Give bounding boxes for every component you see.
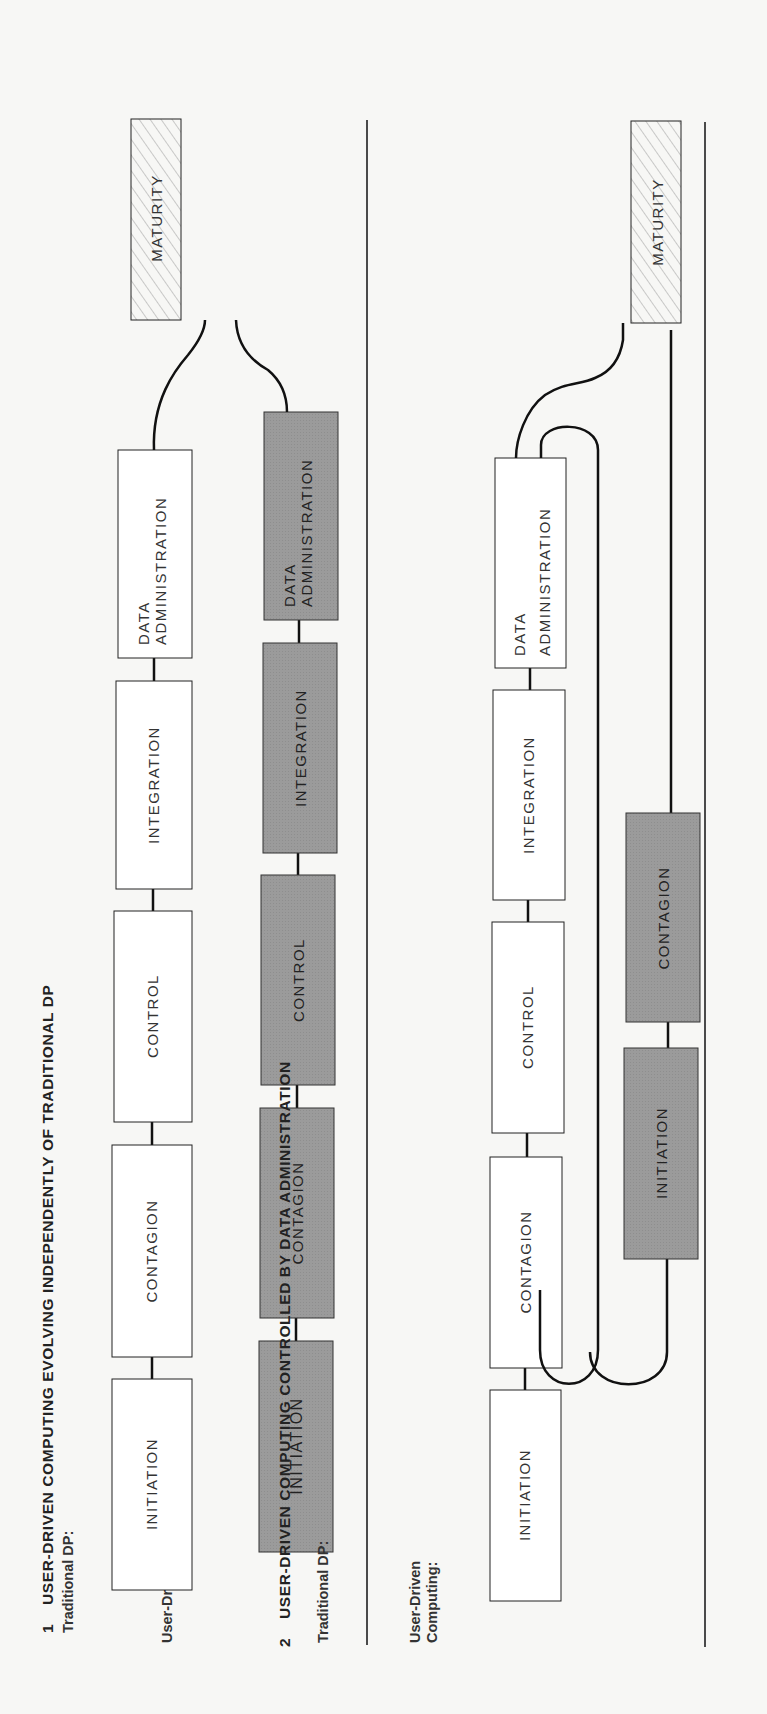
diagram-2-user-stages: CONTAGION INITIATION <box>624 813 700 1259</box>
stage-label: INTEGRATION <box>145 726 162 844</box>
stage-label: CONTROL <box>290 938 307 1022</box>
diagram-1-number: 1 <box>39 1624 56 1633</box>
diagram-2-title: USER-DRIVEN COMPUTING CONTROLLED BY DATA… <box>276 1061 293 1619</box>
stage-label: CONTROL <box>519 985 536 1069</box>
diagram-2: 2 USER-DRIVEN COMPUTING CONTROLLED BY DA… <box>276 121 700 1647</box>
stage-label: DATA <box>135 601 152 645</box>
stage-label: CONTAGION <box>143 1199 160 1302</box>
stage-box-data-administration <box>495 458 566 668</box>
stage-label: CONTAGION <box>517 1210 534 1313</box>
diagram-1-user-stages: INITIATION CONTAGION CONTROL INTEGRATION… <box>259 412 338 1552</box>
diagram-2-traditional-label: Traditional DP: <box>315 1541 331 1643</box>
diagram-2-user-driven-label-line2: Computing: <box>424 1562 440 1643</box>
stage-label: CONTROL <box>144 974 161 1058</box>
diagram-1-title: USER-DRIVEN COMPUTING EVOLVING INDEPENDE… <box>39 984 56 1605</box>
stage-label: ADMINISTRATION <box>298 459 315 607</box>
stage-label: INTEGRATION <box>520 736 537 854</box>
maturity-label: MATURITY <box>649 178 666 266</box>
diagram-2-traditional-stages: INITIATION CONTAGION CONTROL INTEGRATION… <box>490 458 566 1601</box>
stage-label: INITIATION <box>143 1438 160 1530</box>
stage-label: ADMINISTRATION <box>152 497 169 645</box>
stage-label: ADMINISTRATION <box>536 508 553 656</box>
diagram-2-maturity-connector <box>516 323 623 458</box>
diagram-2-number: 2 <box>276 1638 293 1647</box>
diagram-1-traditional-stages: INITIATION CONTAGION CONTROL INTEGRATION… <box>112 450 192 1590</box>
maturity-label: MATURITY <box>148 174 165 262</box>
stage-diagram: 1 USER-DRIVEN COMPUTING EVOLVING INDEPEN… <box>0 0 767 1714</box>
diagram-2-user-driven-label-line1: User-Driven <box>407 1561 423 1643</box>
stage-label: DATA <box>281 563 298 607</box>
stage-label: INITIATION <box>516 1449 533 1541</box>
stage-label: INITIATION <box>653 1107 670 1199</box>
stage-label: CONTAGION <box>655 866 672 969</box>
stage-label: DATA <box>511 612 528 656</box>
diagram-1: 1 USER-DRIVEN COMPUTING EVOLVING INDEPEN… <box>39 119 338 1643</box>
diagram-1-traditional-label: Traditional DP: <box>60 1531 76 1633</box>
stage-label: INTEGRATION <box>292 689 309 807</box>
